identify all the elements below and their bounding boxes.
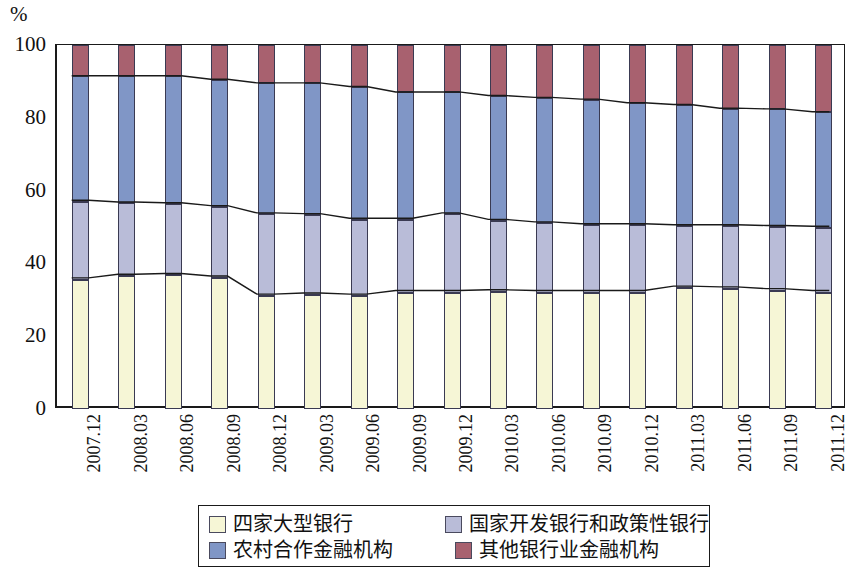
legend-row: 农村合作金融机构 其他银行业金融机构: [209, 537, 709, 563]
x-axis-tick-2010.06: 2010.06: [550, 414, 568, 473]
y-axis-tick-80: 80: [2, 107, 46, 128]
x-axis-tick-2007.12: 2007.12: [85, 414, 103, 473]
y-axis-tick-20: 20: [2, 325, 46, 346]
legend-swatch-other-institutions: [455, 542, 472, 559]
y-axis-tick-0: 0: [2, 398, 46, 419]
x-axis-tick-2009.06: 2009.06: [364, 414, 382, 473]
boundary-line: [72, 274, 830, 295]
x-axis-tick-2011.09: 2011.09: [782, 414, 800, 472]
plot-area: [55, 44, 845, 408]
x-axis-tick-2011.06: 2011.06: [736, 414, 754, 472]
legend-row: 四家大型银行 国家开发银行和政策性银行: [209, 511, 709, 537]
legend-item-0: 四家大型银行: [209, 513, 445, 535]
x-axis-tick-2010.09: 2010.09: [596, 414, 614, 473]
legend-swatch-four-large-banks: [209, 516, 226, 533]
y-axis-tick-40: 40: [2, 252, 46, 273]
boundary-lines-layer: [57, 45, 844, 406]
x-axis-tick-2011.12: 2011.12: [829, 414, 847, 472]
x-axis-tick-2008.06: 2008.06: [178, 414, 196, 473]
x-axis-tick-2008.09: 2008.09: [225, 414, 243, 473]
x-axis-tick-2009.12: 2009.12: [457, 414, 475, 473]
legend-swatch-policy-banks: [445, 516, 462, 533]
boundary-line: [72, 76, 830, 112]
x-axis-tick-2008.12: 2008.12: [271, 414, 289, 473]
legend-label-3: 其他银行业金融机构: [479, 539, 659, 561]
legend-swatch-rural-coop: [209, 542, 226, 559]
x-axis-tick-2011.03: 2011.03: [689, 414, 707, 472]
legend-item-1: 国家开发银行和政策性银行: [445, 513, 709, 535]
boundary-line: [72, 200, 830, 226]
legend-item-3: 其他银行业金融机构: [455, 539, 659, 561]
legend-label-1: 国家开发银行和政策性银行: [469, 513, 709, 535]
x-axis-tick-2009.09: 2009.09: [411, 414, 429, 473]
legend-label-2: 农村合作金融机构: [233, 539, 393, 561]
legend-label-0: 四家大型银行: [233, 513, 353, 535]
stacked-bar-chart: % 020406080100 2007.122008.032008.062008…: [0, 0, 849, 571]
x-axis-tick-2010.03: 2010.03: [503, 414, 521, 473]
y-axis-unit-label: %: [10, 2, 28, 26]
y-axis-tick-100: 100: [2, 34, 46, 55]
x-axis-tick-2008.03: 2008.03: [132, 414, 150, 473]
legend-item-2: 农村合作金融机构: [209, 539, 455, 561]
y-axis-tick-60: 60: [2, 180, 46, 201]
legend: 四家大型银行 国家开发银行和政策性银行 农村合作金融机构 其他银行业金融机构: [198, 505, 710, 567]
x-axis-tick-2009.03: 2009.03: [318, 414, 336, 473]
x-axis-tick-2010.12: 2010.12: [643, 414, 661, 473]
